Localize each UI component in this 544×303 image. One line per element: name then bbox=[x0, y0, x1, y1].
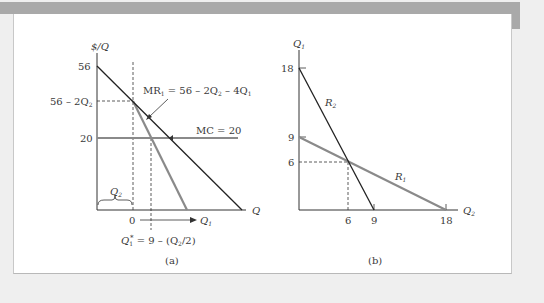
mr1-line bbox=[133, 101, 187, 210]
tick-56-2q2: 56 – 2Q2 bbox=[50, 96, 93, 108]
panel-b-caption: (b) bbox=[368, 255, 382, 266]
panel-a-caption: (a) bbox=[165, 255, 179, 266]
r1-line bbox=[299, 137, 446, 210]
q1-star-formula: Q1* = 9 – (Q2/2) bbox=[121, 234, 196, 247]
mr-label-pointer bbox=[149, 99, 168, 117]
r2-label: R2 bbox=[324, 97, 337, 109]
xtick-6: 6 bbox=[345, 215, 351, 226]
panel-b-xlabel: Q2 bbox=[463, 205, 475, 217]
tick-56: 56 bbox=[78, 61, 91, 72]
mc-label: MC = 20 bbox=[196, 125, 241, 136]
r2-line bbox=[299, 68, 374, 210]
q2-brace bbox=[98, 196, 132, 205]
tick-20: 20 bbox=[80, 133, 93, 144]
ytick-9: 9 bbox=[288, 132, 294, 143]
panel-a-xlabel: Q bbox=[252, 205, 260, 216]
xtick-9: 9 bbox=[371, 215, 377, 226]
q2-brace-label: Q2 bbox=[110, 186, 122, 198]
q1-arrowhead bbox=[190, 217, 197, 223]
ytick-18: 18 bbox=[281, 63, 294, 74]
panel-b: Q1 18 9 6 6 9 18 Q2 R2 R1 (b) bbox=[281, 38, 475, 266]
r1-label: R1 bbox=[394, 171, 406, 183]
figure-svg: $/Q 56 56 – 2Q2 20 MR1 = 56 – 2Q2 – 4Q1 … bbox=[0, 0, 544, 303]
xtick-18: 18 bbox=[440, 215, 453, 226]
shifted-origin: 0 bbox=[129, 215, 135, 226]
mr1-label: MR1 = 56 – 2Q2 – 4Q1 bbox=[143, 85, 252, 97]
panel-b-ylabel: Q1 bbox=[293, 38, 305, 50]
panel-a-ylabel: $/Q bbox=[91, 41, 109, 52]
panel-a: $/Q 56 56 – 2Q2 20 MR1 = 56 – 2Q2 – 4Q1 … bbox=[50, 41, 260, 266]
ytick-6: 6 bbox=[288, 157, 294, 168]
q1-axis-label: Q1 bbox=[200, 215, 212, 227]
